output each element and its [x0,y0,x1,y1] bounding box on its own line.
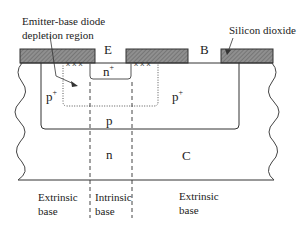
base-terminal-label: B [200,42,209,58]
p-plus-left-label: p+ [46,88,57,105]
base-region [41,63,239,129]
extrinsic-right-label-2: base [179,204,199,216]
p-plus-right-label: p+ [172,88,183,105]
intrinsic-label-1: Intrinsic [95,191,132,203]
oxide-left [20,49,95,63]
svg-text:x x x: x x x [134,59,150,68]
emitter-terminal-label: E [104,42,112,58]
extrinsic-right-label-1: Extrinsic [179,190,219,202]
depletion-label-line2: depletion region [22,29,94,41]
collector-terminal-label: C [182,148,191,164]
n-collector-label: n [106,147,113,163]
extrinsic-left-label-1: Extrinsic [38,191,78,203]
oxide-label: Silicon dioxide [229,24,296,36]
emitter-region-label: n+ [103,63,114,80]
depletion-label-line1: Emitter-base diode [22,15,105,27]
extrinsic-left-label-2: base [38,205,58,217]
p-base-label: p [106,113,113,129]
break-left [15,63,26,180]
svg-text:x x x: x x x [66,59,82,68]
break-right [268,63,279,180]
intrinsic-label-2: base [95,205,115,217]
